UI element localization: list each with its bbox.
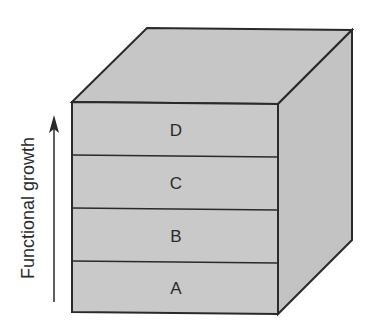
layer-label-d: D <box>170 121 182 140</box>
layer-label-b: B <box>170 227 181 246</box>
cube-diagram: D C B A Functional growth <box>0 0 373 335</box>
layer-label-a: A <box>170 279 182 298</box>
axis-label: Functional growth <box>18 137 38 279</box>
layer-label-c: C <box>170 174 182 193</box>
